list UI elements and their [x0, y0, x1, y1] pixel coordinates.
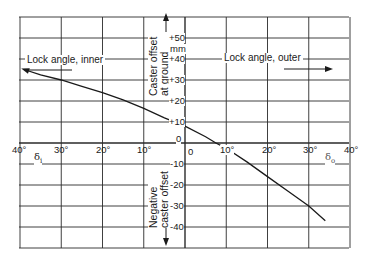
lock-angle-outer-label: Lock angle, outer: [222, 53, 303, 63]
x-tick-inner-40: 40°: [12, 145, 26, 155]
x-tick-outer-20: 20°: [262, 145, 276, 155]
caster-offset-label: Caster offset at ground: [148, 37, 170, 96]
x-tick-inner-30: 30°: [54, 145, 68, 155]
arrow-right-icon: [325, 66, 333, 72]
y-tick-plus-40: +40: [169, 54, 185, 64]
y-tick-minus-30: -30: [170, 201, 184, 211]
negative-caster-line2: caster offset: [159, 171, 170, 228]
y-tick-minus-20: -20: [170, 180, 184, 190]
x-tick-inner-10: 10°: [137, 145, 151, 155]
y-tick-plus-30: +30: [169, 75, 185, 85]
curve-arrowhead-icon: [21, 68, 30, 74]
y-tick-plus-10: +10: [169, 117, 185, 127]
x-tick-zero: 0: [188, 147, 193, 157]
y-tick-minus-10: -10: [170, 159, 184, 169]
delta-i-subscript: i: [40, 157, 42, 165]
y-tick-minus-40: -40: [170, 222, 184, 232]
delta-outer-label: δo: [325, 152, 335, 165]
x-tick-inner-20: 20°: [96, 145, 110, 155]
y-tick-plus-50: +50: [169, 33, 185, 43]
x-tick-outer-30: 30°: [303, 145, 317, 155]
x-tick-outer-40: 40°: [344, 145, 358, 155]
data-curve: [24, 70, 325, 221]
delta-inner-label: δi: [34, 152, 42, 165]
arrow-down-icon: [163, 238, 169, 246]
caster-offset-line2: at ground: [159, 37, 170, 96]
y-tick-plus-20: +20: [169, 96, 185, 106]
x-tick-outer-10: 10°: [220, 145, 234, 155]
delta-o-subscript: o: [331, 157, 335, 165]
chart: Lock angle, inner Lock angle, outer Cast…: [0, 0, 370, 264]
lock-angle-inner-label: Lock angle, inner: [25, 55, 105, 65]
negative-caster-offset-label: Negative caster offset: [148, 171, 170, 228]
y-tick-zero: 0: [176, 134, 181, 144]
